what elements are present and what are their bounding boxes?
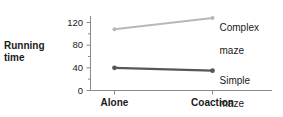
series-marker-simple-maze: [112, 65, 117, 70]
series-marker-complex-maze: [113, 27, 117, 31]
y-axis-tick-label: 40: [57, 63, 83, 73]
series-label-complex-maze-line1: Complex: [220, 22, 259, 34]
series-label-simple-maze-line2: maze: [220, 98, 251, 110]
y-axis-tick-label: 0: [57, 86, 83, 96]
chart-figure: Running time 04080120 AloneCoaction Comp…: [0, 0, 283, 117]
series-marker-simple-maze: [210, 68, 215, 73]
series-label-simple-maze: Simple maze: [220, 64, 251, 117]
series-label-complex-maze-line2: maze: [220, 45, 259, 57]
series-marker-complex-maze: [211, 16, 215, 20]
series-label-simple-maze-line1: Simple: [220, 75, 251, 87]
series-label-complex-maze: Complex maze: [220, 11, 259, 69]
series-layer: [112, 16, 215, 73]
series-line-simple-maze: [115, 68, 213, 71]
y-axis-tick-label: 80: [57, 40, 83, 50]
y-axis-tick-label: 120: [57, 18, 83, 28]
series-line-complex-maze: [115, 18, 213, 29]
x-axis-tick-label-alone: Alone: [75, 97, 155, 108]
x-axis-ticks: [115, 91, 213, 95]
